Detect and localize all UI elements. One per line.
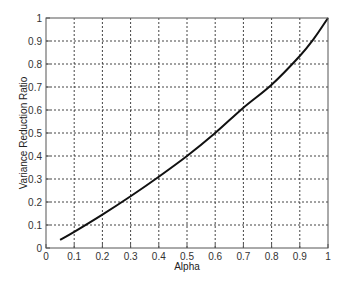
y-tick-label: 0.4 bbox=[28, 151, 42, 162]
x-tick-label: 0.4 bbox=[152, 251, 166, 262]
x-tick-label: 0.3 bbox=[124, 251, 138, 262]
data-series bbox=[60, 18, 328, 240]
y-tick-label: 0.9 bbox=[28, 36, 42, 47]
y-tick-label: 0.6 bbox=[28, 105, 42, 116]
y-tick-label: 0.2 bbox=[28, 197, 42, 208]
y-tick-label: 0 bbox=[36, 243, 42, 254]
y-axis-ticks: 00.10.20.30.40.50.60.70.80.91 bbox=[28, 13, 50, 254]
line-chart: 00.10.20.30.40.50.60.70.80.91 00.10.20.3… bbox=[0, 0, 345, 285]
x-tick-label: 0.7 bbox=[236, 251, 250, 262]
x-tick-label: 0.8 bbox=[265, 251, 279, 262]
y-tick-label: 0.3 bbox=[28, 174, 42, 185]
x-tick-label: 0.2 bbox=[95, 251, 109, 262]
series-line bbox=[60, 18, 328, 240]
y-tick-label: 1 bbox=[36, 13, 42, 24]
x-tick-label: 0 bbox=[43, 251, 49, 262]
x-axis-ticks: 00.10.20.30.40.50.60.70.80.91 bbox=[43, 244, 331, 262]
y-tick-label: 0.7 bbox=[28, 82, 42, 93]
grid-lines bbox=[46, 18, 328, 248]
x-tick-label: 1 bbox=[325, 251, 331, 262]
x-tick-label: 0.9 bbox=[293, 251, 307, 262]
x-axis-label: Alpha bbox=[174, 261, 200, 272]
y-axis-label: Variance Reduction Ratio bbox=[18, 76, 29, 189]
x-tick-label: 0.1 bbox=[67, 251, 81, 262]
x-tick-label: 0.6 bbox=[208, 251, 222, 262]
y-tick-label: 0.1 bbox=[28, 220, 42, 231]
y-tick-label: 0.5 bbox=[28, 128, 42, 139]
y-tick-label: 0.8 bbox=[28, 59, 42, 70]
